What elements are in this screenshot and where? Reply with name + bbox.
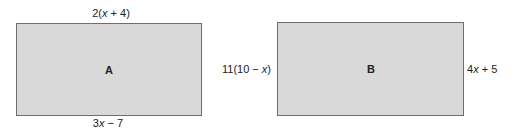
rectangle-b-right-label: 4x + 5 [467,63,497,75]
rectangle-a-bottom-label: 3x − 7 [93,117,123,129]
rectangle-a-label: A [105,64,113,76]
rectangle-b-left-label: 11(10 − x) [222,63,271,75]
rectangle-a-top-label: 2(x + 4) [92,7,130,19]
rectangle-b-label: B [367,63,375,75]
